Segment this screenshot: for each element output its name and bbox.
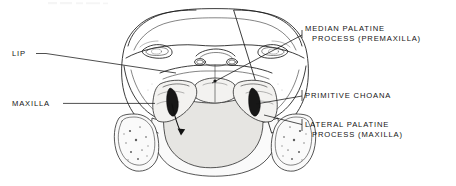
label-maxilla-line-1: MAXILLA [12,99,50,108]
frontal-contour-inner [134,18,296,50]
frontal-prominence [128,9,302,46]
left-mandibular-process [114,114,158,171]
label-lip-line-1: LIP [12,49,26,58]
external-nares [195,49,238,66]
scan-artifact [48,2,108,4]
figure-canvas: LIP MAXILLA MEDIAN PALATINE PROCESS (PRE… [0,0,456,186]
leader-median-palatine [212,35,302,83]
label-median-palatine-line-1: MEDIAN PALATINE [305,24,385,33]
label-lateral-palatine-line-1: LATERAL PALATINE [305,120,389,129]
embryo-head-drawing [114,9,315,177]
label-primitive-choana-line-1: PRIMITIVE CHOANA [305,91,391,100]
label-median-palatine-line-2: PROCESS (PREMAXILLA) [312,34,421,43]
anatomical-figure: LIP MAXILLA MEDIAN PALATINE PROCESS (PRE… [0,0,456,186]
label-lateral-palatine-line-2: PROCESS (MAXILLA) [312,130,403,139]
leader-lip [36,54,176,74]
nasofrontal-fold [126,45,304,58]
left-eye [140,41,172,58]
